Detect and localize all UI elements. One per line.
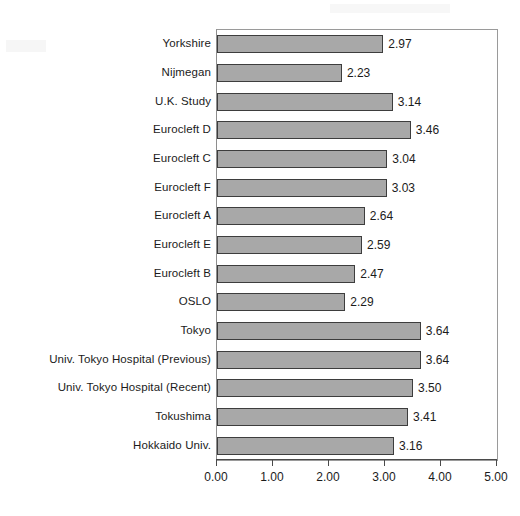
axis-tick-label: 1.00	[242, 470, 302, 485]
plot-area: 2.972.233.143.463.043.032.642.592.472.29…	[216, 29, 498, 461]
category-label: Eurocleft B	[6, 267, 211, 279]
category-label: Tokushima	[6, 410, 211, 422]
category-label: Eurocleft E	[6, 238, 211, 250]
bar	[217, 265, 355, 283]
category-label: Nijmegan	[6, 66, 211, 78]
bar-chart-figure: YorkshireNijmeganU.K. StudyEurocleft DEu…	[0, 0, 520, 516]
axis-line	[216, 459, 497, 460]
bar-row: 2.29	[217, 293, 497, 311]
bar-row: 3.03	[217, 179, 497, 197]
bar-row: 3.64	[217, 351, 497, 369]
category-label: Eurocleft A	[6, 209, 211, 221]
bar	[217, 379, 413, 397]
bar	[217, 35, 383, 53]
category-label: Tokyo	[6, 324, 211, 336]
category-label: OSLO	[6, 295, 211, 307]
bar-row: 2.23	[217, 64, 497, 82]
category-label: Eurocleft C	[6, 152, 211, 164]
bar-value-label: 3.64	[426, 323, 449, 339]
category-label: Univ. Tokyo Hospital (Recent)	[6, 381, 211, 393]
bar-value-label: 2.59	[367, 237, 390, 253]
bar-value-label: 3.03	[392, 180, 415, 196]
axis-tick	[216, 460, 217, 466]
axis-tick	[384, 460, 385, 466]
bar-row: 3.64	[217, 322, 497, 340]
category-label: Yorkshire	[6, 37, 211, 49]
axis-tick	[496, 460, 497, 466]
bar	[217, 293, 345, 311]
bar-value-label: 2.64	[370, 208, 393, 224]
bar-row: 2.47	[217, 265, 497, 283]
bar	[217, 64, 342, 82]
bar	[217, 408, 408, 426]
bar	[217, 351, 421, 369]
bar-row: 3.04	[217, 150, 497, 168]
bar-value-label: 3.04	[392, 151, 415, 167]
bar	[217, 93, 393, 111]
axis-tick-label: 5.00	[466, 470, 520, 485]
bar-value-label: 3.46	[416, 122, 439, 138]
bar-row: 2.97	[217, 35, 497, 53]
bar-value-label: 2.29	[350, 294, 373, 310]
bar-row: 2.59	[217, 236, 497, 254]
axis-tick-label: 4.00	[410, 470, 470, 485]
bar	[217, 236, 362, 254]
bar-value-label: 3.16	[399, 438, 422, 454]
bar-row: 2.64	[217, 207, 497, 225]
bar	[217, 121, 411, 139]
axis-tick	[272, 460, 273, 466]
bar-value-label: 3.64	[426, 352, 449, 368]
bar-row: 3.41	[217, 408, 497, 426]
category-label: Hokkaido Univ.	[6, 439, 211, 451]
axis-tick	[440, 460, 441, 466]
category-label: U.K. Study	[6, 95, 211, 107]
bar	[217, 322, 421, 340]
category-label: Univ. Tokyo Hospital (Previous)	[6, 353, 211, 365]
axis-tick	[328, 460, 329, 466]
value-axis: 0.001.002.003.004.005.00	[216, 459, 497, 511]
axis-tick-label: 0.00	[186, 470, 246, 485]
bar	[217, 207, 365, 225]
bar-row: 3.46	[217, 121, 497, 139]
axis-tick-label: 2.00	[298, 470, 358, 485]
bar-value-label: 2.97	[388, 36, 411, 52]
bar-value-label: 3.41	[413, 409, 436, 425]
category-label: Eurocleft D	[6, 123, 211, 135]
category-axis: YorkshireNijmeganU.K. StudyEurocleft DEu…	[0, 29, 211, 459]
bar	[217, 179, 387, 197]
axis-tick-label: 3.00	[354, 470, 414, 485]
scan-artifact	[330, 4, 450, 13]
bar-row: 3.50	[217, 379, 497, 397]
bar-value-label: 2.23	[347, 65, 370, 81]
bar	[217, 150, 387, 168]
bar-value-label: 3.50	[418, 380, 441, 396]
bar-row: 3.14	[217, 93, 497, 111]
bar	[217, 437, 394, 455]
bar-value-label: 3.14	[398, 94, 421, 110]
bar-row: 3.16	[217, 437, 497, 455]
category-label: Eurocleft F	[6, 181, 211, 193]
bar-value-label: 2.47	[360, 266, 383, 282]
